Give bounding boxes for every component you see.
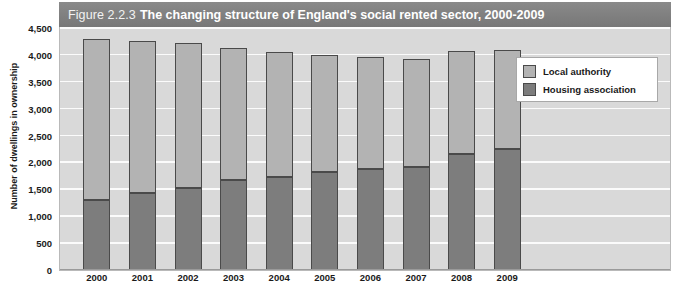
figure-number: Figure 2.2.3 [68,8,136,22]
bar-segment-housing-association[interactable] [311,172,338,270]
x-axis-tick-label: 2002 [177,272,198,283]
bar-group[interactable] [129,28,156,270]
bar-segment-local-authority[interactable] [220,48,247,180]
y-axis-tick-label: 1,000 [28,211,52,222]
bar-group[interactable] [403,28,430,270]
bar-segment-housing-association[interactable] [129,193,156,270]
y-axis-tick-label: 2,500 [28,130,52,141]
bar-segment-housing-association[interactable] [448,154,475,270]
x-axis-tick-label: 2000 [86,272,107,283]
x-axis-tick-label: 2006 [360,272,381,283]
y-axis-tick-label: 500 [36,238,52,249]
bar-group[interactable] [448,28,475,270]
x-axis-line [60,269,670,270]
bar-segment-housing-association[interactable] [494,149,521,270]
legend-item-housing-association: Housing association [523,81,651,98]
bar-segment-local-authority[interactable] [175,43,202,188]
bar-group[interactable] [311,28,338,270]
legend: Local authority Housing association [516,57,658,102]
legend-label-local-authority: Local authority [543,66,611,77]
x-axis-tick-label: 2003 [223,272,244,283]
legend-label-housing-association: Housing association [543,84,636,95]
bar-segment-housing-association[interactable] [403,167,430,270]
legend-swatch-housing-association [523,83,536,96]
y-axis-tick-label: 0 [47,265,52,276]
bar-segment-housing-association[interactable] [220,180,247,270]
bar-segment-local-authority[interactable] [403,59,430,168]
bar-group[interactable] [266,28,293,270]
y-axis-tick-label: 1,500 [28,184,52,195]
figure-container: Figure 2.2.3 The changing structure of E… [0,0,674,295]
bar-segment-local-authority[interactable] [83,39,110,200]
figure-title-text: The changing structure of England's soci… [140,8,545,22]
bar-segment-local-authority[interactable] [357,57,384,169]
bar-segment-local-authority[interactable] [311,55,338,172]
y-axis: Number of dwellings in ownership 05001,0… [0,27,56,271]
bar-group[interactable] [220,28,247,270]
bar-segment-housing-association[interactable] [83,200,110,270]
bar-segment-local-authority[interactable] [129,41,156,193]
figure-title-banner: Figure 2.2.3 The changing structure of E… [59,2,671,27]
bar-group[interactable] [83,28,110,270]
x-axis-tick-label: 2004 [269,272,290,283]
y-axis-tick-label: 3,000 [28,103,52,114]
x-axis-tick-label: 2009 [497,272,518,283]
y-axis-tick-label: 3,500 [28,76,52,87]
x-axis-tick-label: 2001 [132,272,153,283]
bar-segment-housing-association[interactable] [175,188,202,270]
y-axis-tick-label: 4,500 [28,23,52,34]
legend-swatch-local-authority [523,65,536,78]
y-axis-tick-label: 4,000 [28,49,52,60]
bar-group[interactable] [175,28,202,270]
bar-segment-housing-association[interactable] [266,177,293,270]
x-axis-tick-label: 2005 [314,272,335,283]
bar-segment-housing-association[interactable] [357,169,384,270]
bar-group[interactable] [357,28,384,270]
x-axis: 2000200120022003200420052006200720082009 [59,272,671,288]
x-axis-tick-label: 2008 [451,272,472,283]
bar-segment-local-authority[interactable] [448,51,475,154]
x-axis-tick-label: 2007 [405,272,426,283]
legend-item-local-authority: Local authority [523,63,651,80]
bar-segment-local-authority[interactable] [266,52,293,177]
y-axis-title: Number of dwellings in ownership [9,36,19,236]
y-axis-tick-label: 2,000 [28,157,52,168]
